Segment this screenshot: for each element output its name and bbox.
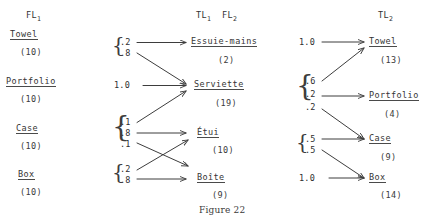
prob-towel-1: .2 <box>120 38 131 47</box>
fl1-word-case: Case <box>16 124 38 134</box>
prob-boite-1: 1.0 <box>299 174 315 183</box>
prob-box-2: .8 <box>120 176 131 185</box>
edge-serviette-towel <box>322 48 364 81</box>
prob-box-1: .2 <box>120 165 131 174</box>
prob-serviette-2: .2 <box>305 90 316 99</box>
tl2-word-case: Case <box>369 134 391 144</box>
tl2-word-box: Box <box>369 173 386 183</box>
tl1-count-essuie-mains: (2) <box>218 56 235 65</box>
edge-case-boite <box>137 143 188 166</box>
tl2-count-towel: (13) <box>380 56 402 65</box>
fl1-count-case: (10) <box>20 142 42 151</box>
edge-towel-serviette <box>137 53 186 84</box>
tl2-word-portfolio: Portfolio <box>369 91 419 101</box>
tl2-word-towel: Towel <box>369 37 397 47</box>
fl1-word-towel: Towel <box>10 30 38 40</box>
tl2-count-box: (14) <box>380 191 402 200</box>
tl1-count-boite: (9) <box>212 191 229 200</box>
prob-essuiemains-1: 1.0 <box>299 38 315 47</box>
tl1-word-boite: Boîte <box>197 173 225 183</box>
arrow-layer <box>0 0 444 220</box>
tl1-word-essuie-mains: Essuie-mains <box>191 37 257 47</box>
figure-caption: Figure 22 <box>199 205 245 215</box>
prob-serviette-3: .2 <box>305 103 316 112</box>
prob-etui-1: .5 <box>305 135 316 144</box>
prob-case-3: .1 <box>120 140 131 149</box>
prob-etui-2: .5 <box>305 146 316 155</box>
tl1-count-serviette: (19) <box>215 99 237 108</box>
tl2-count-case: (9) <box>380 153 397 162</box>
edge-case-serviette <box>137 91 186 123</box>
prob-serviette-1: .6 <box>305 77 316 86</box>
prob-case-1: .1 <box>120 118 131 127</box>
prob-towel-2: .8 <box>120 49 131 58</box>
fl1-word-portfolio: Portfolio <box>6 77 56 87</box>
prob-case-2: .8 <box>120 129 131 138</box>
tl1-word-etui: Étui <box>197 128 219 138</box>
fl1-count-towel: (10) <box>20 48 42 57</box>
tl1-word-serviette: Serviette <box>194 80 244 90</box>
edge-serviette-case <box>322 109 364 139</box>
tl2-count-portfolio: (4) <box>384 110 401 119</box>
column-header-fl2: FL2 <box>222 11 237 22</box>
fl1-count-portfolio: (10) <box>20 95 42 104</box>
figure-canvas: FL1 Towel (10) Portfolio (10) Case (10) … <box>0 0 444 220</box>
edge-box-etui <box>137 140 188 170</box>
edge-etui-box <box>322 150 364 178</box>
fl1-count-box: (10) <box>20 188 42 197</box>
prob-portfolio-1: 1.0 <box>114 81 130 90</box>
column-header-fl1: FL1 <box>26 11 41 22</box>
column-header-tl1: TL1 <box>196 11 211 22</box>
tl1-count-etui: (10) <box>212 146 234 155</box>
column-header-tl2: TL2 <box>378 11 393 22</box>
fl1-word-box: Box <box>18 170 35 180</box>
